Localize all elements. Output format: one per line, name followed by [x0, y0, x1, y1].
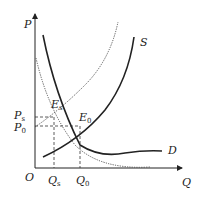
y-axis-label: P	[23, 18, 32, 31]
point-e0-label: E0	[78, 111, 92, 125]
x-axis-label: Q	[182, 176, 191, 189]
supply-curve	[43, 37, 134, 157]
quantity-q0-label: Q0	[76, 174, 90, 188]
supply-demand-diagram: P Q O S D Es E0 Ps P0 Qs Q0	[0, 0, 197, 199]
origin-label: O	[25, 171, 34, 184]
quantity-qs-label: Qs	[48, 174, 61, 188]
demand-curve	[43, 35, 162, 154]
supply-label: S	[140, 36, 148, 49]
diagram-canvas: P Q O S D Es E0 Ps P0 Qs Q0	[0, 0, 197, 199]
demand-label: D	[167, 144, 177, 157]
price-p0-label: P0	[13, 121, 26, 135]
dotted-upward-curve	[35, 22, 118, 127]
